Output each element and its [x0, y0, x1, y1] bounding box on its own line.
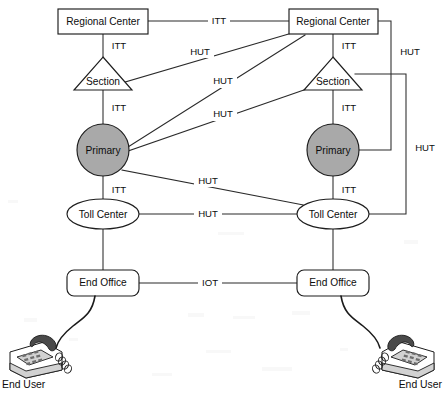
edge-label-sec-right-to-pri-right: ITT	[342, 102, 357, 113]
network-hierarchy-diagram: Regional Center Regional Center Section …	[0, 0, 444, 397]
diagram-background	[0, 0, 444, 397]
edge-label-pri-left-to-toll-right: HUT	[198, 175, 218, 186]
node-toll-center-right[interactable]: Toll Center	[297, 199, 369, 229]
edge-label-rc-to-rc: ITT	[212, 15, 227, 26]
node-toll-center-left[interactable]: Toll Center	[67, 199, 139, 229]
edge-label-sec-left-to-rc-right: HUT	[190, 46, 210, 57]
node-end-office-left[interactable]: End Office	[67, 270, 139, 296]
edge-label-sec-right-to-toll-right: HUT	[415, 142, 435, 153]
node-label-section-left: Section	[86, 76, 120, 87]
node-regional-center-right[interactable]: Regional Center	[289, 9, 378, 34]
node-primary-right[interactable]: Primary	[307, 124, 359, 176]
node-regional-center-left[interactable]: Regional Center	[58, 9, 148, 34]
node-label-end-office-right: End Office	[309, 277, 357, 288]
edge-label-sec-left-to-pri-left: ITT	[112, 102, 127, 113]
node-label-regional-center-left: Regional Center	[66, 16, 140, 27]
edge-label-rc-right-to-sec-right: ITT	[342, 40, 357, 51]
node-label-primary-right: Primary	[315, 145, 351, 156]
node-label-primary-left: Primary	[85, 145, 121, 156]
node-end-office-right[interactable]: End Office	[297, 270, 369, 296]
node-primary-left[interactable]: Primary	[77, 124, 129, 176]
end-user-label-left: End User	[2, 379, 46, 390]
node-label-toll-center-right: Toll Center	[309, 209, 358, 220]
edge-label-pri-right-to-toll-right: ITT	[342, 184, 357, 195]
edge-label-pri-left-to-sec-right: HUT	[213, 108, 233, 119]
node-label-regional-center-right: Regional Center	[296, 16, 370, 27]
edge-label-pri-left-to-toll-left: ITT	[112, 184, 127, 195]
edge-label-rc-right-to-pri-right: HUT	[400, 46, 420, 57]
edge-label-toll-to-toll: HUT	[198, 208, 218, 219]
node-label-toll-center-left: Toll Center	[79, 209, 128, 220]
node-label-section-right: Section	[316, 76, 350, 87]
end-user-label-right: End User	[399, 379, 443, 390]
edge-label-rc-left-to-sec-left: ITT	[112, 40, 127, 51]
edge-label-eo-to-eo: IOT	[202, 277, 218, 288]
node-label-end-office-left: End Office	[79, 277, 127, 288]
edge-label-pri-left-to-rc-right: HUT	[213, 75, 233, 86]
